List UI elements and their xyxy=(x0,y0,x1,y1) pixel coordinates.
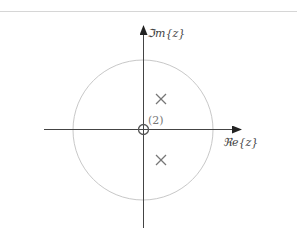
real-axis-label: ℜe{z} xyxy=(223,136,258,149)
pole-marker-icon xyxy=(156,94,166,104)
pole-marker-icon xyxy=(156,155,166,165)
zero-multiplicity-label: (2) xyxy=(148,114,164,127)
imaginary-axis-label: ℑm{z} xyxy=(147,27,185,40)
